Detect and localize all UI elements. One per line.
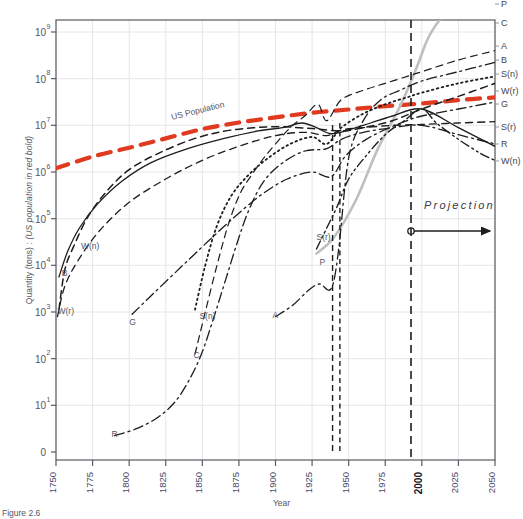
inline-series-label-Wn: W(n): [81, 241, 100, 251]
inline-series-label-Sn: S(n): [199, 311, 215, 321]
y-tick-exponent: 1: [47, 396, 51, 403]
y-tick-exponent: 6: [47, 163, 51, 170]
projection-label: Projection: [424, 199, 495, 211]
x-tick-label: 2025: [449, 472, 460, 493]
x-tick-label: 1900: [267, 472, 278, 493]
x-axis-label: Year: [273, 498, 290, 508]
x-tick-label: 2000: [413, 472, 424, 495]
series-right-label-Wr: W(r): [501, 86, 519, 96]
series-right-labels: PCABS(n)W(r)GS(r)RW(n): [495, 0, 521, 166]
x-tick-label: 2050: [486, 472, 497, 493]
chart-plot-area: Projection US Population 101102103104105…: [0, 0, 523, 500]
x-axis-label-row: Year: [0, 498, 523, 508]
gridlines: [56, 20, 495, 460]
y-tick-label: 10: [35, 27, 47, 38]
x-tick-label: 1775: [84, 472, 95, 493]
x-tick-label: 1750: [47, 472, 58, 493]
x-tick-label: 1950: [340, 472, 351, 493]
inline-series-label-Wr: W(r): [57, 306, 74, 316]
series-right-label-R: R: [501, 139, 508, 149]
series-right-label-Sr: S(r): [501, 122, 516, 132]
y-tick-exponent: 2: [47, 349, 51, 356]
series-right-label-B: B: [501, 55, 507, 65]
us-population-annotation: US Population: [170, 99, 225, 122]
y-tick-label: 10: [35, 307, 47, 318]
y-tick-exponent: 5: [47, 209, 51, 216]
y-axis-label: Quantity (tons) : (US population in red …: [24, 95, 34, 345]
x-axis-ticks: 1750177518001825185018751900192519501975…: [47, 460, 497, 494]
series-right-label-G: G: [501, 99, 508, 109]
series-right-label-Wn: W(n): [501, 156, 521, 166]
y-tick-label-zero: 0: [40, 447, 46, 458]
y-axis-label-main: Quantity (tons) :: [24, 240, 34, 305]
us-population-label: US Population: [170, 99, 225, 122]
y-axis-label-italic: (US population in red bold): [24, 136, 34, 240]
inline-series-label-A: A: [273, 310, 279, 320]
x-tick-label: 1875: [230, 472, 241, 493]
figure-caption: Figure 2.6: [2, 508, 40, 518]
projection-annotation-group: Projection: [408, 20, 495, 460]
series-right-label-P: P: [501, 0, 507, 9]
y-tick-label: 10: [35, 354, 47, 365]
series-inline-labels: W(n)BW(r)GS(n)CRAPS(r): [57, 232, 330, 439]
inline-series-label-B: B: [62, 268, 68, 278]
x-tick-label: 1925: [303, 472, 314, 493]
y-tick-exponent: 7: [47, 116, 51, 123]
y-tick-label: 10: [35, 214, 47, 225]
y-tick-label: 10: [35, 74, 47, 85]
y-tick-label: 10: [35, 260, 47, 271]
x-tick-label: 1850: [193, 472, 204, 493]
y-tick-exponent: 4: [47, 256, 51, 263]
inline-series-label-Sr: S(r): [316, 232, 330, 242]
series-line-Sr: [316, 109, 495, 249]
series-right-label-Sn: S(n): [501, 69, 518, 79]
x-tick-label: 1825: [157, 472, 168, 493]
y-tick-exponent: 8: [47, 69, 51, 76]
x-tick-label: 1975: [376, 472, 387, 493]
y-axis-ticks: 1011021031041051061071081090: [35, 23, 56, 459]
series-right-label-C: C: [501, 18, 508, 28]
x-tick-label: 1800: [120, 472, 131, 493]
figure-container: Quantity (tons) : (US population in red …: [0, 0, 523, 519]
y-tick-label: 10: [35, 400, 47, 411]
series-line-Wn: [59, 109, 495, 277]
y-tick-label: 10: [35, 167, 47, 178]
y-tick-exponent: 3: [47, 303, 51, 310]
series-right-label-A: A: [501, 41, 507, 51]
inline-series-label-R: R: [112, 429, 118, 439]
y-tick-label: 10: [35, 120, 47, 131]
inline-series-label-G: G: [129, 317, 136, 327]
inline-series-label-C: C: [194, 350, 200, 360]
y-tick-exponent: 9: [47, 23, 51, 30]
inline-series-label-P: P: [319, 257, 325, 267]
